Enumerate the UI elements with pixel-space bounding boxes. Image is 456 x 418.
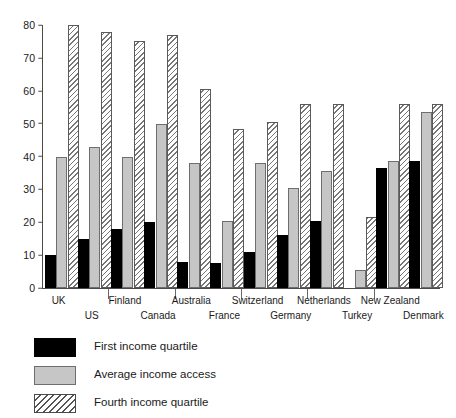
y-axis-tick: 70 [23, 53, 42, 64]
y-axis-tick: 10 [23, 250, 42, 261]
bar-first [210, 263, 221, 288]
bar-group [42, 25, 75, 288]
y-axis-tick-label: 60 [23, 86, 38, 97]
y-axis-tick-label: 0 [29, 283, 38, 294]
bar-avg [255, 163, 266, 288]
y-axis-tick-label: 10 [23, 250, 38, 261]
bar-group [241, 25, 274, 288]
bar-first [376, 168, 387, 288]
y-axis-tick: 80 [23, 20, 42, 31]
bar-avg [355, 270, 366, 288]
plot-area [42, 25, 440, 288]
x-axis-label: Switzerland [232, 296, 284, 306]
bar-avg [56, 157, 67, 289]
bar-group [175, 25, 208, 288]
bar-group [341, 25, 374, 288]
bar-first [45, 255, 56, 288]
legend-item: Average income access [34, 361, 334, 389]
bar-first [310, 221, 321, 288]
bar-first [244, 252, 255, 288]
y-axis-tick-label: 70 [23, 53, 38, 64]
bar-group [142, 25, 175, 288]
y-axis-tick-label: 80 [23, 20, 38, 31]
bar-avg [189, 163, 200, 288]
x-axis-label: Australia [172, 296, 211, 306]
bar-group [407, 25, 440, 288]
y-axis-tick-label: 20 [23, 217, 38, 228]
x-axis-label: Denmark [403, 311, 444, 321]
legend-swatch-first [34, 338, 76, 357]
bar-avg [89, 147, 100, 288]
y-axis-tick-label: 40 [23, 151, 38, 162]
legend-item: Fourth income quartile [34, 389, 334, 417]
legend-item: First income quartile [34, 333, 334, 361]
bar-first [78, 239, 89, 288]
y-axis-tick: 30 [23, 184, 42, 195]
legend-label: Fourth income quartile [94, 397, 208, 409]
bar-chart: 01020304050607080 UKUSFinlandCanadaAustr… [0, 0, 456, 418]
bar-fourth [432, 104, 443, 288]
x-axis-label: Turkey [342, 311, 372, 321]
bar-group [307, 25, 340, 288]
bar-avg [288, 188, 299, 288]
bar-avg [421, 112, 432, 288]
plot-wrapper: 01020304050607080 UKUSFinlandCanadaAustr… [0, 0, 456, 300]
y-axis-tick: 0 [29, 283, 42, 294]
legend-swatch-avg [34, 366, 76, 385]
x-axis-label: Canada [141, 311, 176, 321]
x-axis-label: Germany [270, 311, 311, 321]
bar-first [111, 229, 122, 288]
bar-first [277, 235, 288, 288]
bar-group [108, 25, 141, 288]
x-axis-label: US [85, 311, 99, 321]
y-axis-tick: 50 [23, 118, 42, 129]
y-axis-tick: 60 [23, 86, 42, 97]
legend-label: Average income access [94, 369, 216, 381]
bar-first [144, 222, 155, 288]
bar-avg [122, 157, 133, 289]
x-axis-label: New Zealand [361, 296, 420, 306]
y-axis-tick-label: 30 [23, 184, 38, 195]
bar-group [374, 25, 407, 288]
bar-group [208, 25, 241, 288]
y-axis-tick-label: 50 [23, 118, 38, 129]
x-axis-label: UK [52, 296, 66, 306]
x-axis-label: France [209, 311, 240, 321]
y-axis-tick: 20 [23, 217, 42, 228]
bar-avg [156, 124, 167, 288]
bar-first [409, 161, 420, 288]
bar-avg [388, 161, 399, 288]
chart-legend: First income quartileAverage income acce… [34, 333, 334, 417]
bar-group [274, 25, 307, 288]
legend-label: First income quartile [94, 341, 198, 353]
y-axis-tick: 40 [23, 151, 42, 162]
bar-group [75, 25, 108, 288]
bar-first [177, 262, 188, 288]
x-axis-label: Finland [109, 296, 142, 306]
legend-swatch-fourth [34, 394, 76, 413]
bar-avg [321, 171, 332, 288]
x-axis-label: Netherlands [297, 296, 351, 306]
bar-avg [222, 221, 233, 288]
